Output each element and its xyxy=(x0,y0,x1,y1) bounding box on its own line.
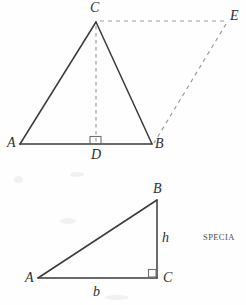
segment-EB-dashed xyxy=(154,24,226,143)
right-angle-mark-C xyxy=(149,270,157,278)
figure-page: A B C D E B A C h b SPECIA xyxy=(0,0,246,305)
geometry-figures xyxy=(0,0,246,305)
side-label-h: h xyxy=(162,231,169,245)
segment-CB xyxy=(96,22,152,144)
segment-AC xyxy=(20,22,96,144)
isosceles-triangle-figure xyxy=(20,21,226,144)
vertex-label-B-upper: B xyxy=(155,137,164,151)
vertex-label-E-upper: E xyxy=(230,9,239,23)
margin-text-special: SPECIA xyxy=(203,233,235,242)
vertex-label-C-upper: C xyxy=(90,1,99,15)
vertex-label-D-upper: D xyxy=(91,148,101,162)
vertex-label-C-lower: C xyxy=(163,271,172,285)
vertex-label-A-lower: A xyxy=(25,271,34,285)
segment-AB-hypotenuse xyxy=(38,200,157,278)
right-triangle-figure xyxy=(38,200,157,278)
side-label-b: b xyxy=(93,285,100,299)
vertex-label-B-lower: B xyxy=(153,182,162,196)
vertex-label-A-upper: A xyxy=(7,136,16,150)
